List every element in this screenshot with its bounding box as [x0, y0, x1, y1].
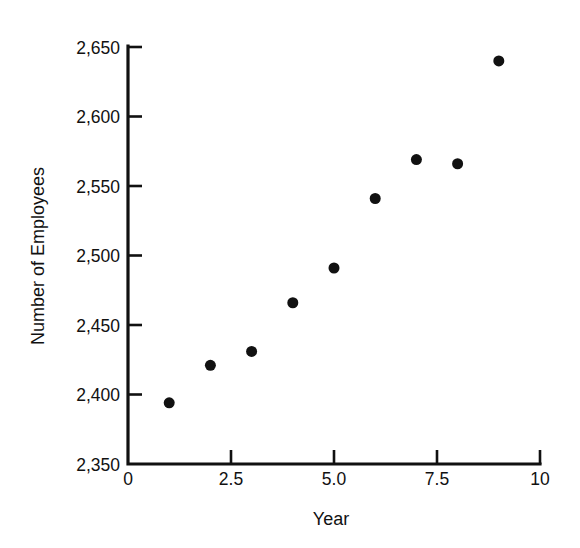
data-point: [370, 193, 381, 204]
y-tick-label: 2,650: [76, 38, 120, 58]
x-tick-label: 10: [530, 469, 550, 489]
data-point: [246, 346, 257, 357]
data-point: [329, 263, 340, 274]
plot-canvas: 2,3502,4002,4502,5002,5502,6002,650 02.5…: [0, 0, 580, 548]
y-tick-label: 2,400: [76, 385, 120, 405]
data-points: [164, 55, 505, 408]
y-tick-label: 2,350: [76, 455, 120, 475]
data-point: [287, 297, 298, 308]
y-tick-label: 2,500: [76, 246, 120, 266]
axis-spine: [128, 46, 540, 464]
x-tick-label: 7.5: [425, 469, 449, 489]
x-axis-title: Year: [313, 509, 349, 529]
y-tick-label: 2,600: [76, 107, 120, 127]
data-point: [411, 154, 422, 165]
x-tick-label: 0: [123, 469, 133, 489]
data-point: [205, 360, 216, 371]
scatter-plot-figure: 2,3502,4002,4502,5002,5502,6002,650 02.5…: [0, 0, 580, 548]
y-axis-ticks: 2,3502,4002,4502,5002,5502,6002,650: [76, 38, 142, 475]
y-axis-title: Number of Employees: [28, 167, 48, 345]
data-point: [164, 397, 175, 408]
x-axis-ticks: 02.55.07.510: [123, 450, 550, 489]
x-tick-label: 2.5: [219, 469, 243, 489]
x-tick-label: 5.0: [322, 469, 347, 489]
data-point: [493, 55, 504, 66]
data-point: [452, 158, 463, 169]
y-tick-label: 2,550: [76, 177, 120, 197]
y-tick-label: 2,450: [76, 316, 120, 336]
